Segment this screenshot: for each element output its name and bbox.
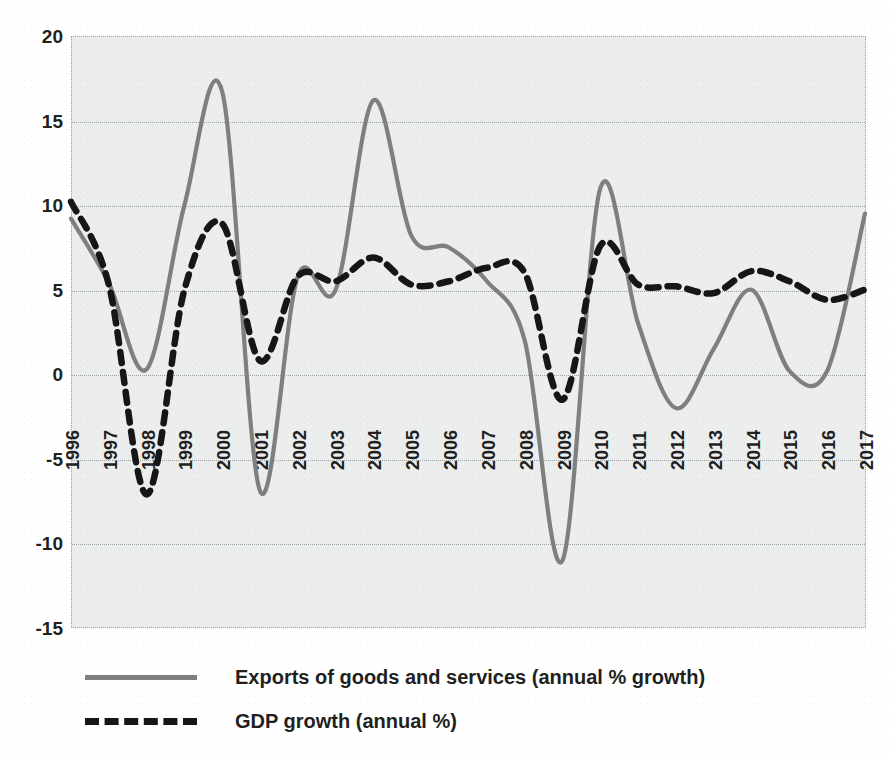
- y-tick-label--15: -15: [5, 619, 63, 638]
- y-axis: 20151050-5-10-15: [0, 0, 63, 757]
- chart-figure: 20151050-5-10-15 19961997199819992000200…: [0, 0, 892, 757]
- y-tick-label-10: 10: [5, 196, 63, 215]
- y-tick-label-5: 5: [5, 280, 63, 299]
- y-tick-label-0: 0: [5, 365, 63, 384]
- y-tick-label-15: 15: [5, 111, 63, 130]
- chart-legend: Exports of goods and services (annual % …: [71, 655, 831, 743]
- series-lines: [71, 36, 866, 628]
- legend-item-exports[interactable]: Exports of goods and services (annual % …: [71, 655, 831, 699]
- series-line-exports: [71, 80, 865, 562]
- legend-label-exports: Exports of goods and services (annual % …: [235, 666, 705, 689]
- legend-label-gdp: GDP growth (annual %): [235, 710, 457, 733]
- legend-swatch-exports-solid-line: [85, 675, 197, 680]
- y-tick-label--10: -10: [5, 534, 63, 553]
- y-tick-label-20: 20: [5, 27, 63, 46]
- legend-item-gdp[interactable]: GDP growth (annual %): [71, 699, 831, 743]
- series-line-gdp: [71, 202, 865, 495]
- y-tick-label--5: -5: [5, 449, 63, 468]
- legend-swatch-gdp-dashed-line: [85, 718, 197, 725]
